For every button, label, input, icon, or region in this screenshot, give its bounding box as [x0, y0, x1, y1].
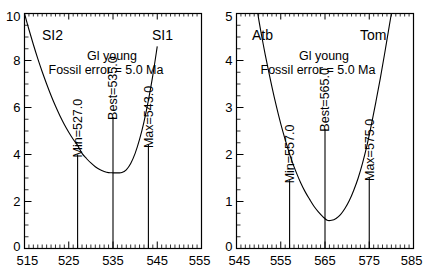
x-axis-tick-labels: 515525535545555	[17, 253, 211, 268]
chart-svg-left: 0246810 515525535545555 Min=527.0Best=53…	[0, 0, 211, 280]
y-tick-label: 2	[225, 147, 232, 162]
y-tick-label: 4	[13, 147, 20, 162]
y-tick-label: 6	[13, 100, 20, 115]
marker-label: Best=565.0	[319, 68, 333, 132]
marker-lines	[290, 129, 370, 249]
y-tick-label: 5	[225, 9, 232, 24]
marker-label: Min=557.0	[283, 125, 297, 184]
y-tick-label: 1	[225, 194, 232, 209]
y-axis-tick-labels: 012345	[225, 9, 232, 254]
y-tick-label: 2	[13, 194, 20, 209]
y-tick-label: 8	[13, 53, 20, 68]
x-tick-label: 515	[17, 253, 39, 268]
x-tick-label: 545	[146, 253, 168, 268]
plot-area-left: 0246810 515525535545555 Min=527.0Best=53…	[6, 9, 210, 268]
y-tick-label: 4	[225, 53, 232, 68]
x-tick-label: 555	[189, 253, 211, 268]
y-tick-label: 10	[6, 9, 20, 24]
marker-lines	[78, 117, 149, 249]
chart-panel-left: 0246810 515525535545555 Min=527.0Best=53…	[0, 0, 211, 280]
y-axis-ticks	[25, 14, 32, 249]
endpoint-label-right: Tom	[360, 27, 386, 43]
endpoint-label-left: Atb	[252, 27, 273, 43]
x-tick-label: 575	[358, 253, 380, 268]
y-axis-tick-labels: 0246810	[6, 9, 20, 254]
figure-root: 0246810 515525535545555 Min=527.0Best=53…	[0, 0, 423, 280]
endpoint-label-right: SI1	[152, 27, 173, 43]
annotation-line-2: Fossil error = 5.0 Ma	[261, 63, 376, 77]
x-axis-tick-labels: 545555565575585	[229, 253, 423, 268]
chart-svg-right: 012345 545555565575585 Min=557.0Best=565…	[212, 0, 423, 280]
marker-label: Max=575.0	[363, 119, 377, 181]
marker-labels: Min=557.0Best=565.0Max=575.0	[283, 68, 377, 183]
annotation-line-2: Fossil error = 5.0 Ma	[49, 63, 164, 77]
annotation-line-1: Gl young	[87, 49, 137, 63]
plot-area-right: 012345 545555565575585 Min=557.0Best=565…	[225, 9, 422, 268]
x-tick-label: 535	[102, 253, 124, 268]
y-axis-ticks	[237, 14, 244, 249]
x-tick-label: 545	[229, 253, 251, 268]
y-tick-label: 3	[225, 100, 232, 115]
marker-label: Max=543.0	[142, 86, 156, 148]
x-tick-label: 565	[314, 253, 336, 268]
chart-panel-right: 012345 545555565575585 Min=557.0Best=565…	[212, 0, 423, 280]
annotation-line-1: Gl young	[299, 49, 349, 63]
marker-label: Min=527.0	[71, 99, 85, 158]
x-tick-label: 525	[58, 253, 80, 268]
x-tick-label: 585	[401, 253, 423, 268]
endpoint-label-left: SI2	[42, 27, 63, 43]
x-tick-label: 555	[270, 253, 292, 268]
